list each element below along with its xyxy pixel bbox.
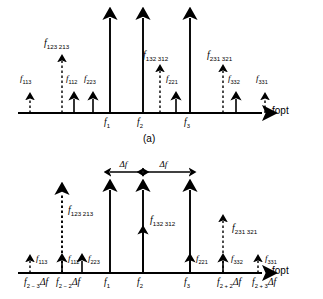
line-label-f132312: f132 312 [150,215,175,227]
axis-tick-f2-2df: f2 − 2Δf [56,278,80,290]
line-label-f123213: f123 213 [68,205,93,217]
axis-tick-f2-3df: f2 − 3Δf [24,278,48,290]
line-label-f113: f113 [36,254,47,265]
figure-root: f113f123 213f112f223f132 312f221f231 321… [0,0,323,299]
axis-tick-f3: f3 [184,118,190,130]
delta-f-span-2-label: Δf [160,160,168,169]
panel-a-plot [18,18,265,113]
delta-f-span-1-label: Δf [120,160,128,169]
axis-tick-f2: f2 [137,118,143,130]
axis-name-a: fopt [272,106,289,116]
line-label-f332: f332 [231,254,243,265]
axis-tick-f1: f1 [104,278,110,290]
axis-tick-f2+2df: f2 + 2Δf [217,278,241,290]
line-label-f221: f221 [196,254,208,265]
line-label-f231321: f231 321 [207,50,232,62]
axis-tick-f2: f2 [137,278,143,290]
line-label-f112: f112 [66,74,77,85]
line-label-f123213: f123 213 [44,38,69,50]
line-label-f331: f331 [256,74,268,85]
line-label-f332: f332 [228,74,240,85]
line-label-f331: f331 [265,254,277,265]
panel-a-tag: (a) [143,134,155,144]
line-label-f132312: f132 312 [143,50,168,62]
line-label-f113: f113 [20,74,31,85]
axis-tick-f1: f1 [104,118,110,130]
axis-tick-f3: f3 [184,278,190,290]
line-label-f112: f112 [68,254,79,265]
axis-tick-f2+3df: f2 + 3Δf [252,278,276,290]
axis-name-b: fopt [272,266,289,276]
line-label-f223: f223 [88,254,100,265]
line-label-f231321: f231 321 [232,223,257,235]
line-label-f223: f223 [84,74,96,85]
line-label-f221: f221 [166,74,178,85]
panel-b-plot [18,172,262,273]
